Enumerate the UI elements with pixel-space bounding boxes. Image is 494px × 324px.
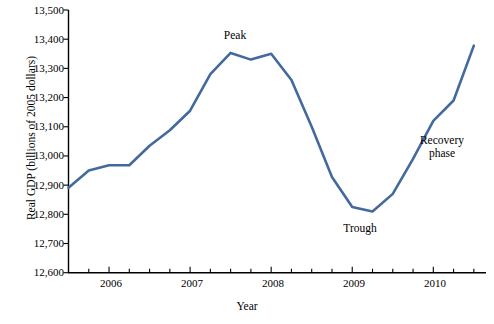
gdp-data-line: [69, 46, 474, 212]
x-tick-label-2009: 2009: [332, 278, 376, 289]
chart-plot-area: [0, 0, 494, 324]
x-axis-ticks: [69, 267, 474, 273]
annotation-trough: Trough: [325, 222, 395, 235]
x-tick-label-2008: 2008: [251, 278, 295, 289]
annotation-peak: Peak: [205, 29, 265, 42]
x-tick-label-2006: 2006: [89, 278, 133, 289]
y-tick-label: 12,900: [12, 180, 64, 191]
x-axis-title: Year: [0, 300, 494, 312]
annotation-recovery-phase: Recovery phase: [406, 134, 478, 160]
y-tick-label: 12,600: [12, 267, 64, 278]
y-tick-label: 13,000: [12, 150, 64, 161]
y-tick-label: 13,200: [12, 92, 64, 103]
x-tick-label-2007: 2007: [170, 278, 214, 289]
y-axis-ticks: [64, 10, 69, 273]
y-tick-label: 13,100: [12, 121, 64, 132]
x-tick-label-2010: 2010: [413, 278, 457, 289]
y-tick-label: 13,500: [12, 5, 64, 16]
y-tick-label: 13,300: [12, 63, 64, 74]
y-tick-label: 13,400: [12, 34, 64, 45]
y-axis-title: Real GDP (billions of 2005 dollars): [25, 23, 37, 253]
gdp-business-cycle-chart: 12,60012,70012,80012,90013,00013,10013,2…: [0, 0, 494, 324]
y-tick-label: 12,800: [12, 209, 64, 220]
y-tick-label: 12,700: [12, 238, 64, 249]
